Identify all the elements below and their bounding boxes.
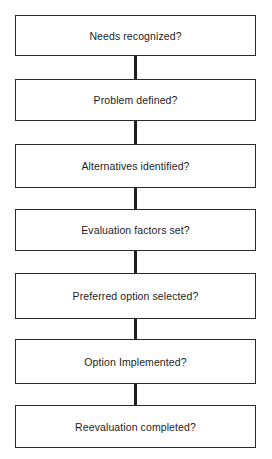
flowchart: Needs recognized? Problem defined? Alter… xyxy=(0,0,272,459)
step-evaluation-factors-set: Evaluation factors set? xyxy=(15,209,256,251)
step-label: Reevaluation completed? xyxy=(75,421,196,433)
connector-line xyxy=(134,384,137,405)
step-problem-defined: Problem defined? xyxy=(15,79,256,121)
step-label: Alternatives identified? xyxy=(81,160,189,172)
connector-line xyxy=(134,56,137,79)
step-label: Problem defined? xyxy=(94,94,178,106)
step-reevaluation-completed: Reevaluation completed? xyxy=(15,405,256,448)
connector-line xyxy=(134,319,137,339)
step-alternatives-identified: Alternatives identified? xyxy=(15,144,256,188)
connector-line xyxy=(134,188,137,209)
connector-line xyxy=(134,121,137,144)
step-label: Evaluation factors set? xyxy=(81,224,190,236)
step-label: Needs recognized? xyxy=(89,30,181,42)
connector-line xyxy=(134,251,137,273)
step-needs-recognized: Needs recognized? xyxy=(15,15,256,56)
step-option-implemented: Option Implemented? xyxy=(15,339,256,384)
step-label: Option Implemented? xyxy=(84,356,186,368)
step-label: Preferred option selected? xyxy=(73,290,199,302)
step-preferred-option-selected: Preferred option selected? xyxy=(15,273,256,319)
